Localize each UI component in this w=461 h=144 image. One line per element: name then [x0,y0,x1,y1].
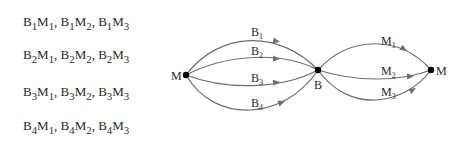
path-diagram: M B M B1 B2 B3 B4 M1 M2 M3 [0,0,461,144]
node-end-dot [428,67,434,73]
edge-m2 [318,70,431,79]
edge-label-b4: B4 [251,96,263,112]
arrow-icon [407,73,414,79]
node-middle-dot [315,67,321,73]
node-start-dot [183,72,189,78]
arrow-icon [399,45,408,54]
node-middle-label: B [314,78,322,92]
arrow-icon [277,98,286,106]
edge-label-m3: M3 [381,85,396,101]
edge-label-b3: B3 [251,71,263,87]
node-start-label: M [171,69,182,83]
node-end-label: M [436,64,447,78]
arrow-icon [273,56,280,62]
edge-label-m2: M2 [381,64,396,80]
edge-label-b1: B1 [251,25,263,41]
edge-label-b2: B2 [251,44,263,60]
arrow-icon [273,79,281,86]
edge-label-m1: M1 [381,34,396,50]
edge-m1 [318,44,431,70]
